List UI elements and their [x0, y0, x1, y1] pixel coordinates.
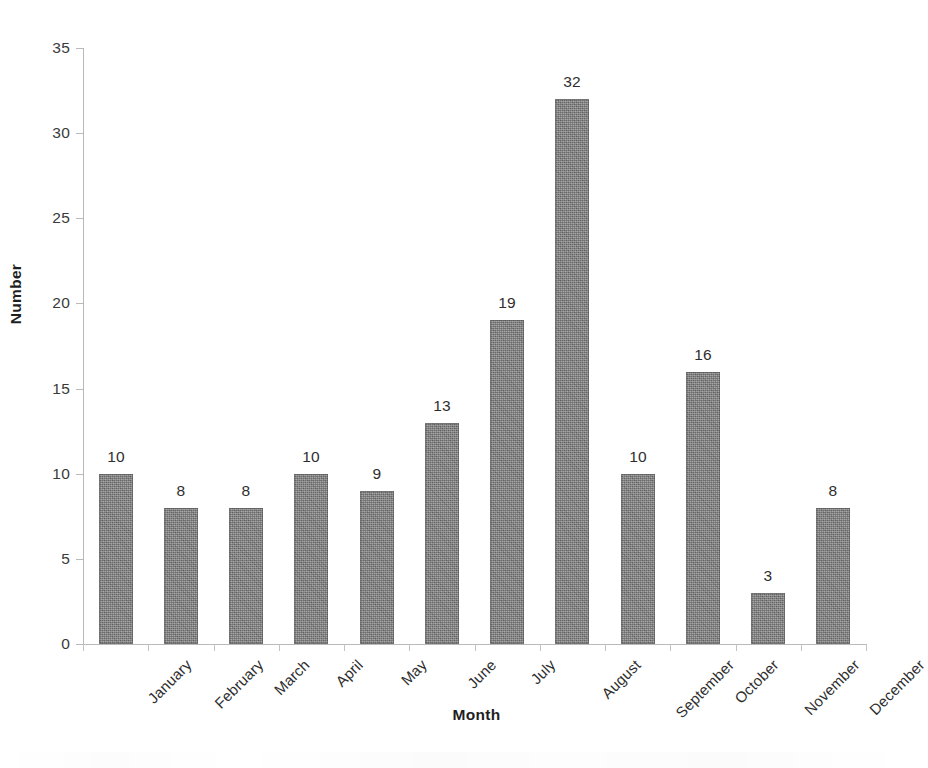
x-axis-category-label: October — [731, 656, 782, 707]
bar — [490, 320, 524, 644]
x-axis-category-label: April — [332, 656, 366, 690]
x-axis-tick — [670, 644, 671, 651]
y-axis-tick-label-text: 20 — [18, 295, 70, 311]
x-axis-category-label: July — [527, 656, 558, 687]
x-axis-tick — [214, 644, 215, 651]
x-axis-category-label: March — [271, 656, 313, 698]
y-axis-tick — [76, 303, 83, 304]
x-axis-category-label: May — [397, 656, 429, 688]
x-axis-category-label: February — [211, 656, 267, 712]
plot-area — [83, 48, 866, 644]
y-axis-tick-label: 30 — [18, 125, 70, 141]
x-axis-tick — [475, 644, 476, 651]
bar — [621, 474, 655, 644]
bar — [229, 508, 263, 644]
y-axis-tick-label-text: 15 — [18, 381, 70, 397]
bar-value-label: 8 — [803, 483, 863, 499]
y-axis-tick-label: 25 — [18, 210, 70, 226]
scan-smudge — [0, 752, 909, 768]
x-axis-category-label: August — [598, 656, 644, 702]
x-axis-category-label: January — [144, 656, 195, 707]
bar-value-label: 8 — [216, 483, 276, 499]
y-axis-tick-label: 35 — [18, 40, 70, 56]
bar — [425, 423, 459, 644]
x-axis-tick — [409, 644, 410, 651]
bar-value-label: 8 — [151, 483, 211, 499]
bar-value-label: 10 — [281, 449, 341, 465]
bar — [360, 491, 394, 644]
bar — [555, 99, 589, 644]
y-axis-tick — [76, 474, 83, 475]
y-axis-tick-label: 20 — [18, 295, 70, 311]
bar-value-label: 13 — [412, 398, 472, 414]
bar-value-label: 16 — [673, 347, 733, 363]
bar-value-label: 9 — [347, 466, 407, 482]
y-axis-tick — [76, 218, 83, 219]
x-axis-tick — [866, 644, 867, 651]
bar-value-label: 32 — [542, 74, 602, 90]
bar — [686, 372, 720, 644]
bar — [751, 593, 785, 644]
bar — [294, 474, 328, 644]
y-axis-tick-label-text: 10 — [18, 466, 70, 482]
x-axis-category-label: June — [464, 656, 500, 692]
y-axis-tick-label: 0 — [18, 636, 70, 652]
x-axis-tick — [83, 644, 84, 651]
x-axis-tick — [279, 644, 280, 651]
y-axis-tick — [76, 48, 83, 49]
x-axis-title-text: Month — [453, 706, 501, 723]
y-axis-tick-label-text: 0 — [18, 636, 70, 652]
bar-value-label: 3 — [738, 568, 798, 584]
x-axis-tick — [736, 644, 737, 651]
y-axis-tick-label-text: 30 — [18, 125, 70, 141]
bar-value-label: 10 — [608, 449, 668, 465]
bar — [164, 508, 198, 644]
y-axis-tick-label-text: 35 — [18, 40, 70, 56]
y-axis-tick — [76, 644, 83, 645]
y-axis-tick-label: 5 — [18, 551, 70, 567]
x-axis-tick — [801, 644, 802, 651]
x-axis-title: Month — [0, 706, 909, 724]
y-axis-tick — [76, 389, 83, 390]
bar-value-label: 10 — [86, 449, 146, 465]
bar — [816, 508, 850, 644]
x-axis-tick — [148, 644, 149, 651]
y-axis-tick — [76, 559, 83, 560]
y-axis-tick — [76, 133, 83, 134]
bar — [99, 474, 133, 644]
x-axis-tick — [605, 644, 606, 651]
x-axis-tick — [540, 644, 541, 651]
x-axis-tick — [344, 644, 345, 651]
y-axis-tick-label-text: 5 — [18, 551, 70, 567]
y-axis-tick-label: 10 — [18, 466, 70, 482]
y-axis-title: Number — [7, 234, 25, 354]
y-axis-tick-label-text: 25 — [18, 210, 70, 226]
bar-value-label: 19 — [477, 295, 537, 311]
y-axis-tick-label: 15 — [18, 381, 70, 397]
